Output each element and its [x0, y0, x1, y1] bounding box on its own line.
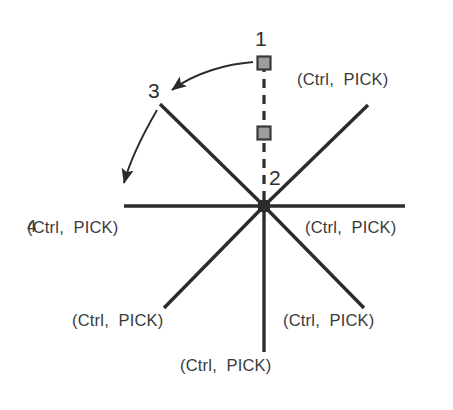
pick-label-right: (Ctrl, PICK)	[305, 219, 397, 236]
hub-marker[interactable]	[258, 200, 270, 212]
diagram-graphics	[0, 0, 453, 410]
diagram-canvas: 1 2 3 4 (Ctrl, PICK) (Ctrl, PICK) (Ctrl,…	[0, 0, 453, 410]
spoke-upper-right	[264, 105, 368, 206]
callout-1: 1	[255, 28, 267, 49]
arrow-1-to-3-icon	[172, 62, 253, 90]
pick-label-bottom-left: (Ctrl, PICK)	[72, 312, 164, 329]
pick-label-bottom: (Ctrl, PICK)	[180, 357, 272, 374]
callout-3: 3	[148, 80, 160, 101]
grip-middle[interactable]	[258, 127, 271, 140]
pick-label-left: (Ctrl, PICK)	[27, 219, 119, 236]
spoke-diagonal-nw-ne	[160, 104, 368, 105]
pick-label-bottom-right: (Ctrl, PICK)	[283, 312, 375, 329]
pick-label-top-right: (Ctrl, PICK)	[297, 71, 389, 88]
callout-2: 2	[269, 167, 281, 188]
spoke-lower-left	[164, 206, 264, 308]
arrow-3-to-4-icon	[124, 110, 157, 183]
grip-top[interactable]	[258, 57, 271, 70]
spoke-upper-left	[160, 104, 264, 206]
